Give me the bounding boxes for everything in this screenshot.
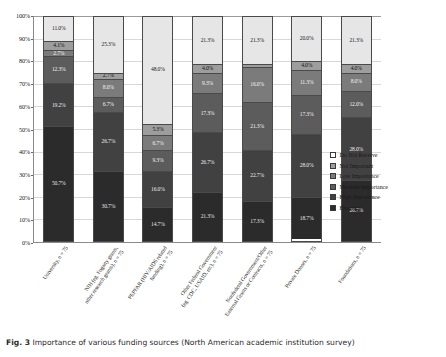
x-axis-label: Nonfederal Government/OtherExternal Gran… [217,245,274,318]
legend-item[interactable]: Not Important [330,161,442,172]
bar-segment: 21.3% [243,17,272,65]
segment-value-label: 8.0% [351,79,362,85]
segment-value-label: 4.0% [351,66,362,72]
figure-label: Fig. 3 [6,338,30,347]
legend-item[interactable]: Do Not Receive [330,150,442,161]
segment-value-label: 22.7% [250,173,264,179]
legend-swatch-icon [330,173,336,179]
bar-segment: 12.0% [342,92,371,119]
x-axis-label-line: University, n = 75 [41,245,69,281]
x-axis-label-line: Private Donors, n = 75 [284,245,318,290]
bar-column: 20.0%4.0%11.3%17.3%28.0%18.7% [282,16,332,242]
x-axis-label-line: External Grants or Contracts, n = 75 [223,249,274,318]
bar-segment: 21.3% [193,193,222,241]
stacked-bars: 11.0%4.1%2.7%12.3%19.2%50.7%25.3%2.7%8.0… [34,16,381,242]
x-axis-label: PEPFAR (HIV/AIDS relatedfunding), n = 75 [127,245,175,305]
y-tick-label: 0% [22,240,30,246]
bar-segment: 18.7% [292,198,321,240]
segment-value-label: 12.0% [349,102,363,108]
segment-value-label: 21.3% [250,124,264,130]
bar-segment: 21.3% [193,17,222,65]
stacked-bar[interactable]: 11.0%4.1%2.7%12.3%19.2%50.7% [43,16,74,242]
bar-segment: 12.3% [44,57,73,85]
legend-swatch-icon [330,194,336,200]
segment-value-label: 21.3% [250,38,264,44]
x-axis-label: University, n = 75 [41,245,69,281]
segment-value-label: 2.7% [103,74,114,79]
legend-label: Essential [340,205,361,211]
y-tick-label: 30% [19,172,30,178]
segment-value-label: 20.0% [300,36,314,42]
figure-caption: Fig. 3 Importance of various funding sou… [6,338,440,348]
y-tick-mark [31,220,34,221]
legend-swatch-icon [330,184,336,190]
stacked-bar[interactable]: 21.3%4.0%9.3%17.3%26.7%21.3% [192,16,223,242]
segment-value-label: 12.3% [52,67,66,73]
y-tick-mark [31,61,34,62]
bar-segment: 19.2% [44,84,73,127]
bar-segment: 16.0% [243,68,272,104]
legend-label: High Importance [340,194,380,200]
segment-value-label: 21.3% [201,38,215,44]
plot-wrapper: 11.0%4.1%2.7%12.3%19.2%50.7%25.3%2.7%8.0… [33,16,381,243]
bar-segment: 8.0% [342,74,371,92]
y-tick-label: 100% [16,13,30,19]
segment-value-label: 26.7% [102,139,116,145]
y-tick-label: 40% [19,149,30,155]
x-axis-label-line: Nonfederal Government/Other [217,245,268,314]
segment-value-label: 11.3% [300,80,314,86]
segment-value-label: 5.3% [152,127,163,133]
bar-segment: 16.0% [143,172,172,208]
bar-segment: 25.3% [94,17,123,74]
bar-segment: 22.7% [243,151,272,202]
y-tick-label: 90% [19,36,30,42]
segment-value-label: 9.3% [152,158,163,164]
legend-item[interactable]: Medium Importance [330,182,442,193]
segment-value-label: 18.7% [300,216,314,222]
bar-segment: 6.7% [143,136,172,151]
y-tick-mark [31,130,34,131]
x-axis-label-line: Foundations, n = 75 [337,245,368,285]
y-tick-label: 20% [19,194,30,200]
bar-segment: 17.3% [193,94,222,133]
chart-legend: Do Not ReceiveNot ImportantLow Importanc… [330,150,442,213]
bar-segment: 9.3% [143,151,172,172]
bar-segment: 11.3% [292,71,321,96]
stacked-bar[interactable]: 20.0%4.0%11.3%17.3%28.0%18.7% [291,16,322,242]
stacked-bar[interactable]: 48.0%5.3%6.7%9.3%16.0%14.7% [142,16,173,242]
x-axis-label-line: (eg. CDC, USAID, etc), n = 75 [180,249,225,309]
bar-segment: 20.0% [292,17,321,62]
y-tick-mark [31,243,34,244]
bar-segment: 4.0% [342,65,371,74]
legend-item[interactable]: Low Importance [330,171,442,182]
stacked-bar[interactable]: 21.3%1.3%16.0%21.3%22.7%17.3% [242,16,273,242]
segment-value-label: 14.7% [151,222,165,228]
x-axis-label: Foundations, n = 75 [337,245,368,285]
segment-value-label: 11.0% [52,26,66,32]
segment-value-label: 2.7% [53,51,64,56]
segment-value-label: 25.3% [102,42,116,48]
bar-column: 48.0%5.3%6.7%9.3%16.0%14.7% [133,16,183,242]
segment-value-label: 6.7% [152,141,163,147]
segment-value-label: 4.1% [53,43,64,49]
bar-segment: 4.0% [193,65,222,74]
bar-segment: 17.3% [243,202,272,241]
segment-value-label: 17.3% [250,219,264,225]
bar-segment: 21.3% [342,17,371,65]
legend-swatch-icon [330,205,336,211]
stacked-bar[interactable]: 25.3%2.7%8.0%6.7%26.7%30.7% [93,16,124,242]
bar-segment: 9.3% [193,74,222,95]
segment-value-label: 26.7% [201,160,215,166]
legend-item[interactable]: High Importance [330,192,442,203]
bar-column: 11.0%4.1%2.7%12.3%19.2%50.7% [34,16,84,242]
bar-segment: 14.7% [143,208,172,241]
x-axis-labels: University, n = 75NIH (eg. Fogarty grant… [33,245,381,333]
segment-value-label: 17.3% [201,111,215,117]
bar-segment: 17.3% [292,96,321,135]
x-axis-label: Other Federal Government(eg. CDC, USAID,… [174,245,224,309]
legend-item[interactable]: Essential [330,203,442,214]
bar-segment: 48.0% [143,17,172,125]
segment-value-label: 4.0% [202,66,213,72]
x-axis-label: Private Donors, n = 75 [284,245,318,290]
bar-segment: 4.0% [292,62,321,71]
